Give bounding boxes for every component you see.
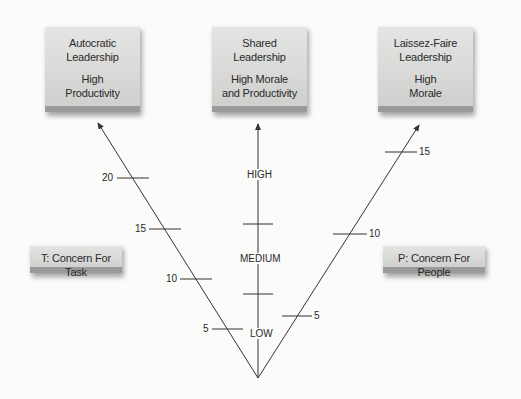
level-medium: MEDIUM xyxy=(239,253,282,264)
box-title: Autocratic xyxy=(45,36,140,50)
box-title: Leadership xyxy=(45,50,140,64)
task-tick-20: 20 xyxy=(102,172,113,183)
people-tick-5: 5 xyxy=(314,310,320,321)
shared-leadership-box: Shared Leadership High Morale and Produc… xyxy=(212,26,307,112)
concern-for-people-box: P: Concern For People xyxy=(383,245,485,273)
box-outcome: Productivity xyxy=(45,86,140,100)
task-tick-10: 10 xyxy=(166,273,177,284)
box-title: Leadership xyxy=(378,50,473,64)
box-outcome: High xyxy=(45,72,140,86)
people-tick-15: 15 xyxy=(419,146,430,157)
concern-for-task-box: T: Concern For Task xyxy=(30,245,122,273)
box-title: Shared xyxy=(212,36,307,50)
level-low: LOW xyxy=(249,328,274,339)
box-outcome: High xyxy=(378,72,473,86)
box-outcome: Morale xyxy=(378,86,473,100)
box-title: Laissez-Faire xyxy=(378,36,473,50)
box-outcome: High Morale xyxy=(212,72,307,86)
people-tick-10: 10 xyxy=(369,228,380,239)
laissez-faire-leadership-box: Laissez-Faire Leadership High Morale xyxy=(378,26,473,112)
box-title: Leadership xyxy=(212,50,307,64)
task-tick-5: 5 xyxy=(203,323,209,334)
task-axis-arrow xyxy=(98,123,258,378)
task-tick-15: 15 xyxy=(135,223,146,234)
autocratic-leadership-box: Autocratic Leadership High Productivity xyxy=(45,26,140,112)
box-outcome: and Productivity xyxy=(212,86,307,100)
level-high: HIGH xyxy=(246,169,273,180)
